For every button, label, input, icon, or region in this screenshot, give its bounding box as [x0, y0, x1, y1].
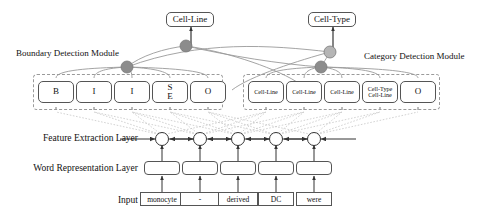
output-cell-type: Cell-Type: [308, 12, 356, 27]
boundary-tag-0: B: [38, 81, 74, 103]
boundary-tag-3-line-2: E: [167, 92, 173, 101]
boundary-tag-3: S E: [152, 81, 188, 103]
word-representation-box-1: [182, 161, 218, 175]
boundary-detection-module-label: Boundary Detection Module: [16, 48, 119, 58]
category-tag-0: Cell-Line: [248, 81, 284, 103]
input-token-3: DC: [258, 192, 294, 206]
feature-extraction-layer-label: Feature Extraction Layer: [38, 133, 138, 143]
category-tag-3: Cell-Type Cell-Line: [362, 81, 398, 103]
word-representation-box-0: [144, 161, 180, 175]
figure-canvas: Cell-Line Cell-Type Boundary Detection M…: [0, 0, 483, 218]
boundary-tag-2: I: [114, 81, 150, 103]
input-token-4: were: [296, 192, 332, 206]
category-tag-1: Cell-Line: [286, 81, 322, 103]
boundary-tag-4: O: [190, 81, 226, 103]
input-layer-label: Input: [78, 195, 138, 205]
word-representation-layer-label: Word Representation Layer: [18, 163, 138, 173]
input-token-0: monocyte: [140, 192, 184, 206]
output-cell-line: Cell-Line: [166, 12, 214, 27]
category-tag-2: Cell-Line: [324, 81, 360, 103]
category-tag-4: O: [400, 81, 436, 103]
word-representation-box-2: [220, 161, 256, 175]
input-token-2: derived: [218, 192, 258, 206]
word-representation-box-3: [258, 161, 294, 175]
input-token-1: -: [180, 192, 220, 206]
category-tag-3-line-2: Cell-Line: [368, 92, 392, 98]
category-detection-module-label: Category Detection Module: [364, 51, 464, 61]
word-representation-box-4: [296, 161, 332, 175]
boundary-tag-1: I: [76, 81, 112, 103]
